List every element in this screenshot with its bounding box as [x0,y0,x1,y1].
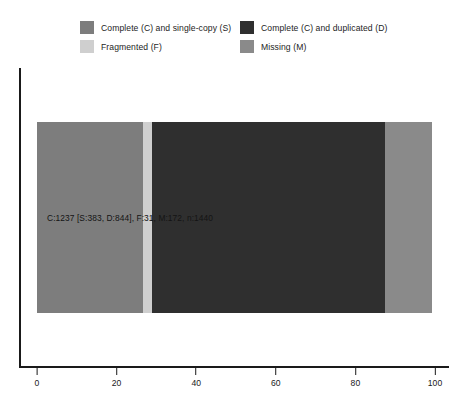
stacked-bar[interactable] [37,122,435,313]
tick-mark [116,368,117,375]
x-axis-tick: 60 [271,368,281,388]
tick-mark [435,368,436,375]
legend: Complete (C) and single-copy (S) Complet… [80,18,390,56]
bar-segment-missing[interactable] [385,122,432,313]
legend-swatch-icon [240,21,254,34]
bar-segment-single-copy[interactable] [37,122,143,313]
legend-item-label: Fragmented (F) [101,42,162,52]
tick-mark [37,368,38,375]
tick-label: 40 [191,378,201,388]
legend-item-duplicated: Complete (C) and duplicated (D) [240,18,390,37]
tick-label: 60 [271,378,281,388]
tick-label: 100 [428,378,442,388]
legend-item-missing: Missing (M) [240,37,390,56]
legend-item-fragmented: Fragmented (F) [80,37,240,56]
tick-mark [355,368,356,375]
legend-swatch-icon [80,40,94,53]
x-axis-ticks: 0 20 40 60 80 100 [0,368,468,398]
x-axis-tick: 0 [35,368,40,388]
tick-label: 20 [112,378,122,388]
tick-label: 0 [35,378,40,388]
legend-swatch-icon [80,21,94,34]
tick-mark [275,368,276,375]
bar-segment-fragmented[interactable] [143,122,152,313]
legend-item-label: Complete (C) and single-copy (S) [101,23,231,33]
tick-label: 80 [351,378,361,388]
x-axis-tick: 80 [351,368,361,388]
plot-area: C:1237 [S:383, D:844], F:31, M:172, n:14… [37,122,435,313]
legend-item-single-copy: Complete (C) and single-copy (S) [80,18,240,37]
bar-segment-duplicated[interactable] [152,122,385,313]
x-axis-tick: 20 [112,368,122,388]
x-axis-tick: 100 [428,368,442,388]
y-axis-line [19,68,21,368]
legend-item-label: Missing (M) [261,42,306,52]
legend-swatch-icon [240,40,254,53]
busco-summary-figure: Complete (C) and single-copy (S) Complet… [0,0,468,411]
legend-item-label: Complete (C) and duplicated (D) [261,23,387,33]
x-axis-tick: 40 [191,368,201,388]
tick-mark [196,368,197,375]
